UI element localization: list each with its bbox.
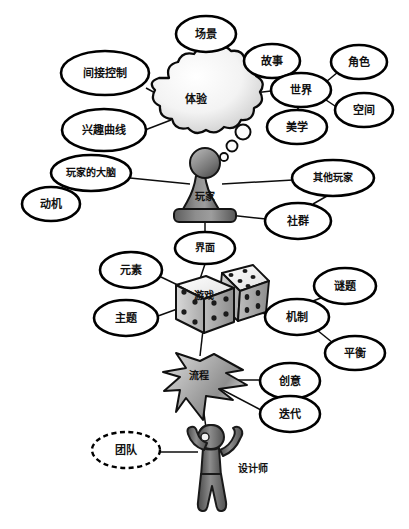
thought-bubble-icon-small [220,153,228,161]
edge-game-process [200,330,203,356]
node-label-motivation: 动机 [40,197,62,210]
node-creativity[interactable]: 创意 [260,363,320,399]
node-role[interactable]: 角色 [331,45,387,79]
edge-experience-interest-curve [145,120,171,130]
node-scene[interactable]: 场景 [176,16,236,52]
process-arrow-icon [163,353,247,420]
node-world[interactable]: 世界 [271,73,331,107]
node-interest-curve[interactable]: 兴趣曲线 [62,109,146,151]
node-designer[interactable]: 设计师 [187,425,268,511]
node-label-world: 世界 [290,83,312,96]
node-label-creativity: 创意 [278,374,301,387]
node-label-game: 游戏 [194,289,214,301]
node-theme[interactable]: 主题 [94,300,158,336]
node-label-mechanics: 机制 [286,310,308,323]
node-label-process: 流程 [189,369,209,381]
die-front-icon [176,276,234,333]
node-label-indirect-control: 间接控制 [83,66,127,79]
edge-mechanics-balance [317,330,333,343]
designer-eye-icon [201,433,209,441]
node-space[interactable]: 空间 [335,93,393,127]
node-label-player-brain: 玩家的大脑 [66,166,116,178]
node-label-community: 社群 [286,214,309,227]
node-label-designer: 设计师 [238,462,268,474]
node-interface[interactable]: 界面 [175,232,235,264]
designer-torso-icon [201,448,221,476]
node-label-aesthetics: 美学 [286,120,308,133]
node-label-space: 空间 [353,103,375,116]
node-iteration[interactable]: 迭代 [260,396,320,432]
node-label-scene: 场景 [195,27,217,40]
node-label-experience: 体验 [185,92,208,105]
thought-bubble-icon-large [236,125,251,140]
diagram-canvas: 体验 玩家 [0,0,409,529]
node-mechanics[interactable]: 机制 [265,299,329,335]
pawn-head-icon [190,148,220,178]
node-player-brain[interactable]: 玩家的大脑 [51,155,131,191]
mind-map-svg: 体验 玩家 [0,0,409,529]
node-process[interactable]: 流程 [163,353,247,420]
node-label-player: 玩家 [195,190,216,202]
edge-otherplayers-community [313,196,327,204]
node-balance[interactable]: 平衡 [325,336,385,370]
node-community[interactable]: 社群 [265,203,331,239]
thought-bubble-group [220,125,251,162]
node-indirect-control[interactable]: 间接控制 [61,51,149,95]
node-label-theme: 主题 [115,311,138,324]
node-label-team: 团队 [115,443,138,456]
edge-player-playerbrain [130,178,190,184]
node-label-role: 角色 [348,55,370,68]
node-elements[interactable]: 元素 [100,252,162,288]
edge-player-otherplayers [222,180,293,184]
designer-legs-icon [198,474,226,511]
node-label-interface: 界面 [195,242,215,253]
node-puzzle[interactable]: 谜题 [314,268,376,304]
node-label-other-players: 其他玩家 [313,171,354,183]
node-motivation[interactable]: 动机 [22,187,80,221]
thought-bubble-icon-medium [227,141,238,152]
node-label-puzzle: 谜题 [334,279,357,292]
node-label-story: 故事 [261,54,283,67]
node-game[interactable]: 游戏 [176,265,269,333]
node-label-elements: 元素 [120,263,142,276]
pawn-base-icon [174,209,236,222]
node-aesthetics[interactable]: 美学 [267,110,327,144]
node-team[interactable]: 团队 [92,432,160,468]
node-other-players[interactable]: 其他玩家 [292,160,374,196]
node-label-balance: 平衡 [344,346,366,359]
node-label-interest-curve: 兴趣曲线 [82,123,126,136]
node-label-iteration: 迭代 [279,407,301,420]
